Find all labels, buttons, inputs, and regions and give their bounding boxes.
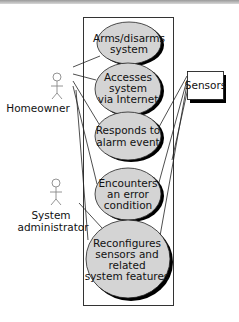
assoc-homeowner-access [73,74,96,80]
use-case-arms[interactable]: Arms/disarms system [93,22,165,66]
use-case-access[interactable]: Accesses system via Internet [95,63,164,117]
use-case-responds[interactable]: Responds to alarm event [95,112,164,162]
actor-label: System [31,209,70,221]
use-case-label: system features [85,270,170,282]
use-case-label: system [110,43,148,55]
svg-text:administrator: administrator [17,221,89,233]
svg-text:via Internet: via Internet [98,93,159,105]
use-case-label: alarm event [96,136,159,148]
actor-label: administrator [17,221,89,233]
use-case-label: via Internet [98,93,159,105]
svg-text:Homeowner: Homeowner [6,102,70,114]
actor-system-administrator[interactable]: System administrator [17,179,89,233]
actor-label: Homeowner [6,102,70,114]
assoc-homeowner-reconfig [76,90,88,240]
svg-text:system: system [110,43,148,55]
use-case-diagram: Arms/disarms system Accesses system via … [0,0,239,322]
actor-homeowner[interactable]: Homeowner [6,73,70,114]
stick-figure-icon [51,73,63,99]
use-case-reconfig[interactable]: Reconfigures sensors and related system … [85,220,173,301]
svg-text:alarm event: alarm event [96,136,159,148]
svg-text:System: System [31,209,70,221]
use-case-error[interactable]: Encounters an error condition [95,168,164,222]
assoc-homeowner-arms [73,56,100,67]
sensors-label: Sensors [185,79,226,91]
svg-text:Responds to: Responds to [96,124,161,136]
external-sensors[interactable]: Sensors [185,72,226,104]
svg-text:system features: system features [85,270,170,282]
svg-text:Sensors: Sensors [185,79,226,91]
use-case-label: condition [104,199,153,211]
use-case-label: Responds to [96,124,161,136]
svg-text:condition: condition [104,199,153,211]
stick-figure-icon [50,179,62,205]
